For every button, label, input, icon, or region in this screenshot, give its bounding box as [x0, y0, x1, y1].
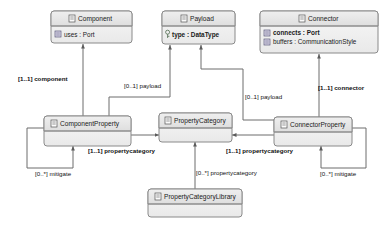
class-box-property-category-library[interactable]: PropertyCategoryLibrary [148, 189, 242, 217]
class-icon [155, 193, 161, 200]
class-box-component-property[interactable]: ComponentProperty [44, 116, 131, 146]
attribute-connector-connects: connects : Port [273, 29, 320, 36]
attribute-connector-buffers: buffers : CommunicationStyle [273, 38, 357, 46]
class-box-component[interactable]: Component uses : Port [51, 11, 132, 43]
edge-label-component: [1..1] component [18, 75, 68, 82]
class-name-property-category: PropertyCategory [174, 117, 226, 125]
class-name-connector-property: ConnectorProperty [290, 121, 346, 129]
attribute-component-uses: uses : Port [64, 31, 95, 38]
attribute-icon [264, 39, 270, 45]
attribute-icon [55, 31, 61, 37]
class-name-component-property: ComponentProperty [60, 120, 120, 128]
class-box-property-category[interactable]: PropertyCategory [159, 113, 232, 142]
attribute-icon [264, 30, 270, 36]
class-icon [165, 117, 171, 124]
class-name-payload: Payload [190, 15, 214, 23]
edge-payload-left [109, 45, 170, 116]
edge-label-propertycategory-left: [1..1] propertycategory [88, 147, 156, 154]
class-name-connector: Connector [308, 15, 339, 22]
class-name-property-category-library: PropertyCategoryLibrary [164, 193, 237, 201]
class-icon [69, 15, 75, 22]
class-name-component: Component [78, 15, 112, 23]
edge-label-propertycategory-right: [1..1] propertycategory [226, 147, 294, 154]
edge-payload-right [201, 45, 274, 120]
edge-label-payload-left: [0..1] payload [124, 82, 162, 89]
diagram-canvas: [1..1] component [0..1] payload [0..1] p… [0, 0, 390, 228]
attribute-payload-type: type : DataType [172, 31, 220, 39]
class-icon [281, 121, 287, 128]
class-box-connector-property[interactable]: ConnectorProperty [274, 117, 352, 146]
class-box-payload[interactable]: Payload type : DataType [162, 11, 235, 44]
class-icon [181, 15, 187, 22]
class-box-connector[interactable]: Connector connects : Port buffers : Comm… [260, 11, 378, 53]
class-icon [51, 120, 57, 127]
edge-label-mitigate-left: [0..*] mitigate [35, 170, 72, 177]
edge-label-propertycategory-library: [0..*] propertycategory [196, 169, 258, 176]
uml-class-diagram: [1..1] component [0..1] payload [0..1] p… [0, 0, 390, 228]
edge-label-connector: [1..1] connector [318, 84, 365, 91]
class-icon [299, 15, 305, 22]
edge-label-payload-right: [0..1] payload [245, 93, 283, 100]
edge-label-mitigate-right: [0..*] mitigate [320, 170, 357, 177]
